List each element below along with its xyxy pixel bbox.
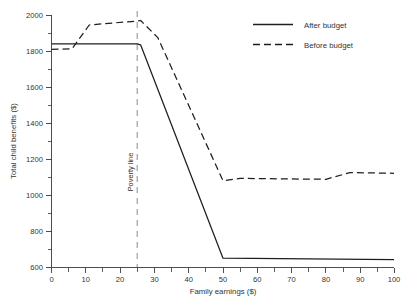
- chart-legend: After budget Before budget: [253, 21, 354, 50]
- poverty-line-annotation: Poverty line: [126, 11, 137, 267]
- y-axis-title: Total child benefits ($): [9, 103, 18, 179]
- x-tick-label-70: 70: [287, 275, 295, 284]
- y-tick-label-1600: 1600: [26, 83, 43, 92]
- x-tick-label-50: 50: [219, 275, 227, 284]
- y-tick-label-1000: 1000: [26, 191, 43, 200]
- series-after-budget: [52, 44, 395, 260]
- y-tick-label-600: 600: [30, 263, 43, 272]
- line-chart-canvas: 600 800 1000 1200 1400 1600 1800 2000: [0, 0, 407, 306]
- poverty-line-label: Poverty line: [126, 153, 135, 192]
- series-group: [52, 21, 395, 260]
- legend-label-before-budget: Before budget: [304, 41, 354, 50]
- x-axis-title: Family earnings ($): [190, 287, 257, 296]
- chart-figure: 600 800 1000 1200 1400 1600 1800 2000: [0, 0, 407, 306]
- axes-group: [52, 15, 395, 268]
- y-tick-label-1800: 1800: [26, 47, 43, 56]
- y-tick-label-1400: 1400: [26, 119, 43, 128]
- x-tick-label-60: 60: [253, 275, 261, 284]
- x-axis-tick-labels: 0 10 20 30 40 50 60 70 80 90 100: [49, 275, 400, 284]
- y-axis-ticks: [46, 16, 52, 268]
- y-axis-tick-labels: 600 800 1000 1200 1400 1600 1800 2000: [26, 11, 43, 272]
- x-tick-label-10: 10: [82, 275, 90, 284]
- x-axis-ticks: [52, 268, 395, 274]
- x-tick-label-100: 100: [388, 275, 401, 284]
- x-tick-label-90: 90: [356, 275, 364, 284]
- x-tick-label-80: 80: [322, 275, 330, 284]
- x-tick-label-20: 20: [116, 275, 124, 284]
- y-tick-label-800: 800: [30, 227, 43, 236]
- legend-label-after-budget: After budget: [304, 21, 347, 30]
- x-tick-label-0: 0: [49, 275, 53, 284]
- y-tick-label-2000: 2000: [26, 11, 43, 20]
- y-tick-label-1200: 1200: [26, 155, 43, 164]
- x-tick-label-30: 30: [150, 275, 158, 284]
- x-tick-label-40: 40: [184, 275, 192, 284]
